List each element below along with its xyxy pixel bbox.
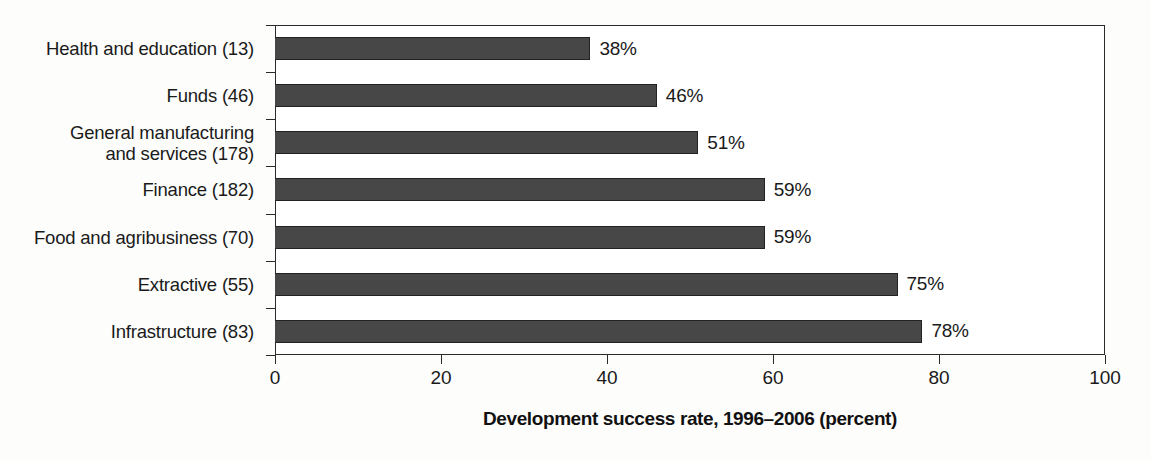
bar-value-label: 51%: [707, 132, 744, 154]
bar-value-label: 59%: [774, 226, 811, 248]
y-axis-tick: [266, 261, 275, 262]
bar: [275, 84, 657, 107]
bar: [275, 178, 765, 201]
y-axis-tick: [266, 166, 275, 167]
category-label: Infrastructure (83): [0, 308, 265, 355]
category-label-line: Funds (46): [167, 85, 254, 106]
category-label-line: General manufacturing: [70, 122, 254, 143]
x-axis-tick-label: 40: [596, 367, 617, 389]
y-axis-tick: [266, 72, 275, 73]
x-axis-tick: [1105, 355, 1106, 364]
x-axis-tick: [773, 355, 774, 364]
y-axis-tick: [266, 308, 275, 309]
x-axis-tick: [441, 355, 442, 364]
category-label-line: Extractive (55): [138, 274, 254, 295]
bar-row: 46%: [275, 72, 1105, 119]
y-axis-tick: [266, 355, 275, 356]
x-axis-tick-label: 80: [928, 367, 949, 389]
x-axis-tick-label: 60: [762, 367, 783, 389]
x-axis-tick: [939, 355, 940, 364]
x-axis-tick-label: 20: [430, 367, 451, 389]
bar-row: 38%: [275, 25, 1105, 72]
bar: [275, 37, 590, 60]
bar-row: 78%: [275, 308, 1105, 355]
category-label-line: Health and education (13): [46, 38, 254, 59]
horizontal-bar-chart: Health and education (13)Funds (46)Gener…: [0, 0, 1151, 461]
bar-row: 51%: [275, 119, 1105, 166]
bar-value-label: 59%: [774, 179, 811, 201]
category-label-line: Infrastructure (83): [111, 321, 254, 342]
bar: [275, 131, 698, 154]
y-axis-tick: [266, 25, 275, 26]
bar-row: 75%: [275, 261, 1105, 308]
category-axis-labels: Health and education (13)Funds (46)Gener…: [0, 25, 265, 355]
bar: [275, 226, 765, 249]
bar-value-label: 78%: [931, 320, 968, 342]
bar-value-label: 38%: [599, 38, 636, 60]
category-label-line: and services (178): [105, 143, 254, 164]
bar-row: 59%: [275, 214, 1105, 261]
category-label: Finance (182): [0, 166, 265, 213]
category-label-line: Food and agribusiness (70): [34, 227, 254, 248]
category-label: Extractive (55): [0, 261, 265, 308]
bar-row: 59%: [275, 166, 1105, 213]
category-label-line: Finance (182): [142, 179, 254, 200]
y-axis-tick: [266, 214, 275, 215]
bar-series: 38%46%51%59%59%75%78%: [275, 25, 1105, 355]
bar-value-label: 46%: [666, 85, 703, 107]
category-label: Food and agribusiness (70): [0, 214, 265, 261]
bar-value-label: 75%: [907, 273, 944, 295]
x-axis-tick: [275, 355, 276, 364]
x-axis-tick-label: 0: [270, 367, 281, 389]
bar: [275, 320, 922, 343]
bar: [275, 273, 898, 296]
x-axis-tick: [607, 355, 608, 364]
category-label: Funds (46): [0, 72, 265, 119]
y-axis-tick: [266, 119, 275, 120]
category-label: Health and education (13): [0, 25, 265, 72]
category-label: General manufacturingand services (178): [0, 119, 265, 166]
x-axis-title: Development success rate, 1996–2006 (per…: [275, 408, 1105, 430]
x-axis-tick-label: 100: [1089, 367, 1121, 389]
